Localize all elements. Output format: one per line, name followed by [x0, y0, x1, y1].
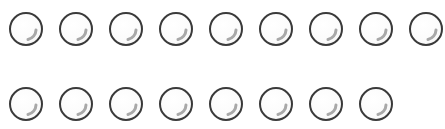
bubble-highlight-icon: [161, 14, 191, 44]
bubble-highlight-icon: [361, 89, 391, 119]
bubble-highlight-icon: [11, 89, 41, 119]
bubble-highlight-icon: [211, 14, 241, 44]
bubble-highlight-icon: [261, 89, 291, 119]
bubble-icon: [9, 87, 43, 121]
bubble-highlight-icon: [61, 14, 91, 44]
bubble-highlight-icon: [261, 14, 291, 44]
bubble-highlight-icon: [61, 89, 91, 119]
bubble-icon: [159, 87, 193, 121]
bubble-highlight-icon: [311, 14, 341, 44]
bubble-icon: [259, 87, 293, 121]
bubble-highlight-icon: [161, 89, 191, 119]
bubble-icon: [159, 12, 193, 46]
bubble-icon: [59, 12, 93, 46]
bubble-icon: [309, 87, 343, 121]
bubble-grid: [0, 0, 445, 129]
bubble-highlight-icon: [111, 89, 141, 119]
bubble-icon: [209, 12, 243, 46]
bubble-icon: [9, 12, 43, 46]
bubble-highlight-icon: [311, 89, 341, 119]
bubble-icon: [209, 87, 243, 121]
bubble-icon: [109, 12, 143, 46]
bubble-icon: [359, 12, 393, 46]
bubble-icon: [309, 12, 343, 46]
bubble-highlight-icon: [361, 14, 391, 44]
bubble-highlight-icon: [11, 14, 41, 44]
bubble-highlight-icon: [211, 89, 241, 119]
bubble-highlight-icon: [111, 14, 141, 44]
bubble-icon: [409, 12, 443, 46]
bubble-icon: [109, 87, 143, 121]
bubble-icon: [359, 87, 393, 121]
bubble-icon: [59, 87, 93, 121]
bubble-highlight-icon: [411, 14, 441, 44]
bubble-icon: [259, 12, 293, 46]
